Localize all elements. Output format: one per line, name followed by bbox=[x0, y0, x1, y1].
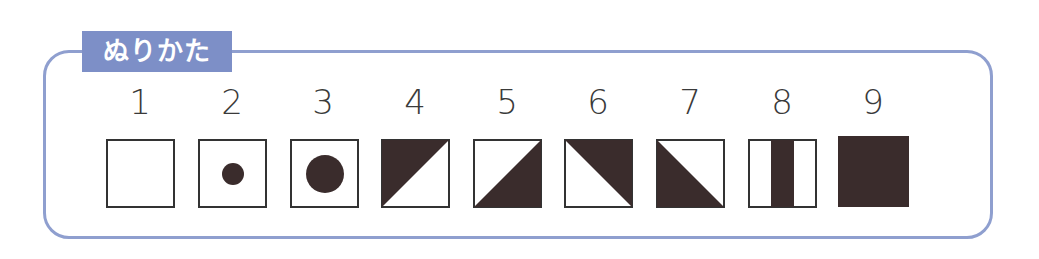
legend-title: ぬりかた bbox=[82, 31, 232, 72]
pattern-full-fill-icon bbox=[838, 136, 907, 205]
pattern-number-4: 4 bbox=[380, 82, 450, 122]
pattern-empty-icon bbox=[106, 139, 175, 208]
pattern-top-right-triangle-icon bbox=[564, 139, 633, 208]
pattern-number-7: 7 bbox=[655, 82, 725, 122]
pattern-number-5: 5 bbox=[472, 82, 542, 122]
pattern-number-8: 8 bbox=[747, 82, 817, 122]
pattern-large-dot-icon bbox=[290, 139, 359, 208]
pattern-top-left-triangle-icon bbox=[381, 139, 450, 208]
pattern-number-6: 6 bbox=[563, 82, 633, 122]
pattern-number-9: 9 bbox=[838, 82, 908, 122]
pattern-bottom-right-triangle-icon bbox=[473, 139, 542, 208]
pattern-vertical-stripe-icon bbox=[748, 139, 817, 208]
pattern-bottom-left-triangle-icon bbox=[656, 139, 725, 208]
pattern-number-3: 3 bbox=[288, 82, 358, 122]
pattern-small-dot-icon bbox=[198, 139, 267, 208]
pattern-number-1: 1 bbox=[105, 82, 175, 122]
pattern-number-2: 2 bbox=[197, 82, 267, 122]
